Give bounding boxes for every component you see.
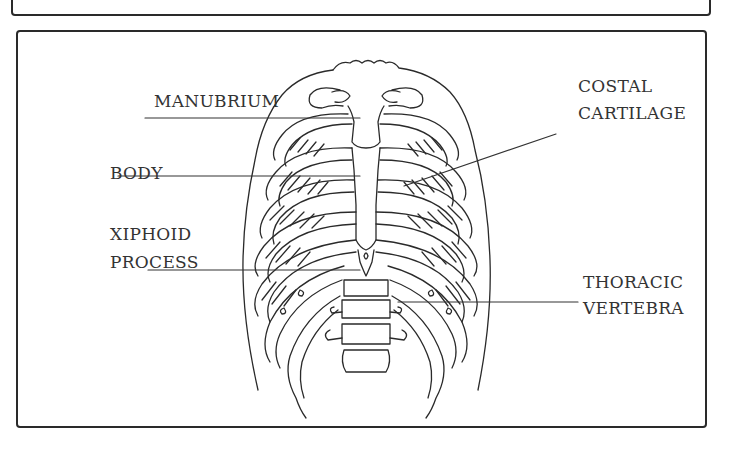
- label-thoracic-line2: VERTEBRA: [583, 295, 684, 322]
- label-xiphoid-line1: XIPHOID: [110, 221, 191, 248]
- label-costal-line2: CARTILAGE: [578, 100, 686, 127]
- label-costal-line1: COSTAL: [578, 73, 652, 100]
- label-thoracic-line1: THORACIC: [583, 269, 683, 296]
- label-manubrium: MANUBRIUM: [154, 88, 279, 115]
- right-ribs: [376, 114, 477, 418]
- label-xiphoid-line2: PROCESS: [110, 249, 199, 276]
- left-ribs: [255, 114, 356, 418]
- costal-cartilage-leader-line: [404, 134, 556, 186]
- label-body: BODY: [110, 160, 163, 187]
